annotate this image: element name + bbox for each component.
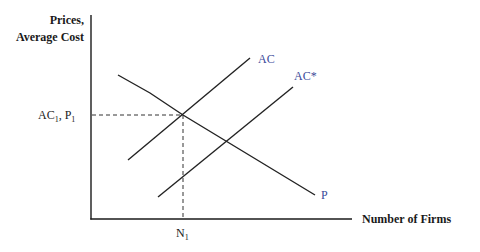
y-axis-label-line1: Prices,: [50, 13, 84, 27]
ac-star-curve: [158, 87, 293, 197]
ac1-main: AC: [38, 108, 55, 122]
n1-main: N: [176, 226, 185, 240]
y-axis-label-line2: Average Cost: [16, 30, 84, 44]
p1-main: , P: [59, 108, 72, 122]
n1-subscript: 1: [185, 233, 189, 242]
equilibrium-firms-label: N1: [176, 226, 189, 242]
equilibrium-price-label: AC1, P1: [38, 108, 75, 124]
p1-subscript: 1: [71, 115, 75, 124]
ac-curve-label: AC: [258, 52, 275, 66]
price-curve-label: P: [321, 188, 328, 202]
diagram-canvas: Prices, Average Cost Number of Firms AC …: [0, 0, 480, 252]
x-axis-label: Number of Firms: [362, 212, 451, 226]
ac-star-curve-label: AC*: [294, 69, 317, 83]
